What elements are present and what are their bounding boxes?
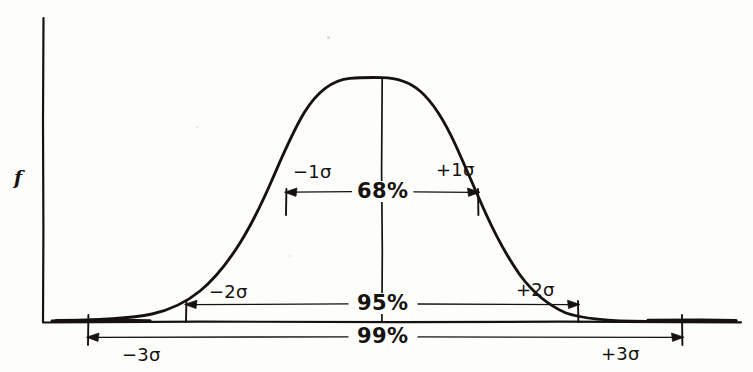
density-axis-label: f [14,168,22,187]
paper-speck [327,36,330,39]
label-95-percent: 95% [352,293,413,314]
label-minus-1-sigma: −1σ [293,163,332,181]
dimension-line-95-right [418,304,572,305]
paper-speck [289,255,291,257]
label-plus-3-sigma: +3σ [601,345,640,363]
label-plus-1-sigma: +1σ [436,161,475,179]
y-axis [43,18,44,322]
label-plus-2-sigma: +2σ [516,281,555,299]
dimension-line-99-right [418,337,676,338]
paper-speck [196,126,198,128]
normal-distribution-figure: f −1σ +1σ 68% −2σ +2σ 95% −3σ +3σ 99% [0,0,753,372]
label-99-percent: 99% [352,326,413,347]
dimension-line-68-left [292,192,352,193]
dimension-line-68-right [414,192,472,193]
dimension-line-95-left [192,304,348,305]
label-minus-2-sigma: −2σ [209,283,248,301]
label-68-percent: 68% [352,181,413,202]
dimension-line-99-left [94,337,348,338]
label-minus-3-sigma: −3σ [122,346,161,364]
